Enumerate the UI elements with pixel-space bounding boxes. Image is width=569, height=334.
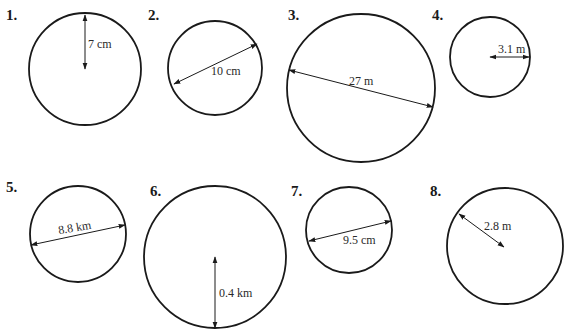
radius-label: 2.8 m	[484, 219, 512, 233]
problem-7: 7. 9.5 cm	[291, 183, 392, 273]
diameter-label: 8.8 km	[57, 218, 93, 238]
problem-6: 6. 0.4 km	[144, 183, 286, 328]
problem-5: 5. 8.8 km	[6, 179, 126, 282]
problem-number: 7.	[291, 183, 303, 199]
diameter-label: 9.5 cm	[343, 233, 376, 247]
diameter-label: 27 m	[349, 74, 374, 88]
radius-label: 3.1 m	[498, 42, 526, 56]
problem-number: 6.	[150, 183, 162, 199]
problem-number: 2.	[148, 7, 160, 23]
problem-3: 3. 27 m	[287, 7, 435, 162]
circle	[447, 188, 563, 304]
problem-4: 4. 3.1 m	[432, 7, 530, 97]
problem-number: 8.	[430, 183, 442, 199]
problem-number: 5.	[6, 179, 18, 195]
problem-8: 8. 2.8 m	[430, 183, 563, 304]
problem-2: 2. 10 cm	[148, 7, 262, 115]
diameter-label: 10 cm	[211, 64, 241, 78]
problem-number: 3.	[288, 7, 300, 23]
circle	[306, 187, 392, 273]
radius-label: 0.4 km	[219, 286, 253, 300]
problem-number: 1.	[6, 7, 18, 23]
problem-1: 1. 7 cm	[6, 7, 141, 125]
radius-label: 7 cm	[88, 37, 112, 51]
problem-number: 4.	[432, 7, 444, 23]
circles-worksheet: 1. 7 cm 2. 10 cm 3. 27 m 4. 3.1 m 5. 8.8…	[0, 0, 569, 334]
